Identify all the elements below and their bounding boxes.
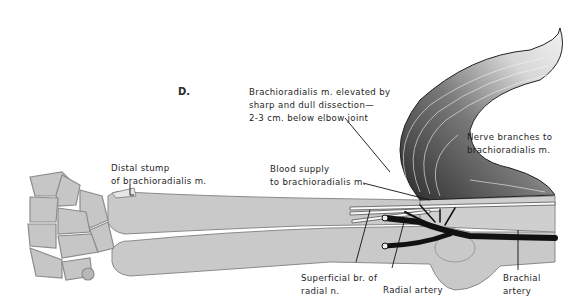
label-line: Brachioradialis m. elevated by	[249, 86, 390, 99]
label-nerve-branches: Nerve branches to brachioradialis m.	[467, 131, 552, 157]
label-radial-artery: Radial artery	[383, 284, 443, 297]
label-superficial-radial-nerve: Superficial br. of radial n.	[301, 272, 377, 298]
label-line: 2-3 cm. below elbow joint	[249, 112, 390, 125]
label-blood-supply: Blood supply to brachioradialis m.	[270, 163, 366, 189]
label-distal-stump: Distal stump of brachioradialis m.	[111, 162, 206, 188]
label-line: sharp and dull dissection—	[249, 99, 390, 112]
label-brachial-artery: Brachial artery	[503, 272, 541, 298]
distal-stump	[112, 188, 136, 198]
label-line: brachioradialis m.	[467, 144, 552, 157]
label-line: radial n.	[301, 285, 377, 298]
label-line: Distal stump	[111, 162, 206, 175]
label-line: Superficial br. of	[301, 272, 377, 285]
label-line: Radial artery	[383, 284, 443, 297]
panel-label: D.	[178, 86, 190, 97]
label-line: to brachioradialis m.	[270, 176, 366, 189]
label-line: Nerve branches to	[467, 131, 552, 144]
label-line: Brachial	[503, 272, 541, 285]
label-line: of brachioradialis m.	[111, 175, 206, 188]
hand-bones	[28, 172, 114, 280]
label-line: artery	[503, 285, 541, 298]
label-brachioradialis-elevated: Brachioradialis m. elevated by sharp and…	[249, 86, 390, 125]
label-line: Blood supply	[270, 163, 366, 176]
